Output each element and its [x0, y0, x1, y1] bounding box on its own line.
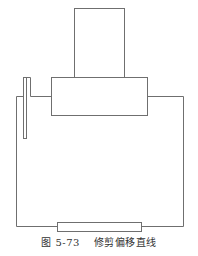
top-rectangle	[75, 9, 125, 78]
left-step-line	[27, 78, 52, 97]
figure-title: 修剪偏移直线	[94, 237, 157, 248]
figure-number: 图 5-73	[41, 237, 80, 248]
figure-caption: 图 5-73 修剪偏移直线	[0, 234, 198, 249]
left-thin-strip	[24, 78, 27, 139]
bottom-rectangle	[58, 223, 142, 232]
middle-rectangle	[52, 78, 148, 116]
diagram-canvas	[0, 0, 198, 256]
